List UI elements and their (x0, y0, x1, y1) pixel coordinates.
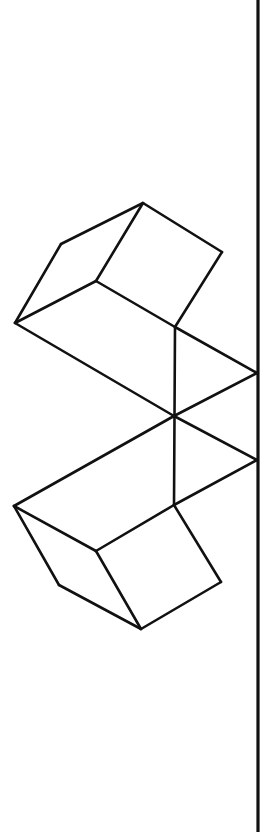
edge (96, 281, 175, 327)
lower-cube (14, 505, 221, 629)
edge (174, 373, 257, 416)
edge (141, 582, 221, 629)
edge (15, 323, 174, 416)
edge (174, 460, 257, 505)
edge (174, 505, 221, 582)
edge (14, 416, 174, 506)
cube-diagram (0, 0, 274, 839)
edge (174, 416, 257, 460)
edge (175, 252, 222, 327)
edge (143, 203, 222, 252)
edge (96, 505, 174, 551)
connector (14, 323, 257, 506)
upper-cube (15, 203, 222, 327)
edge (175, 327, 257, 373)
